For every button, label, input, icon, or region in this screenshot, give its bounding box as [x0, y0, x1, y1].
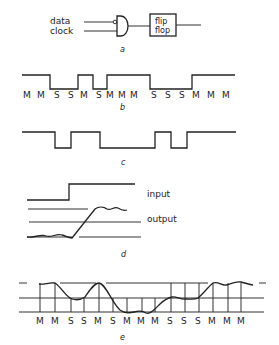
label-e-4: M — [94, 316, 102, 326]
label-b-8: M — [130, 90, 138, 100]
caption-c: c — [121, 158, 126, 167]
panel-a: data clock flip flop a — [50, 14, 201, 54]
label-e-6: M — [123, 316, 131, 326]
label-e-1: M — [51, 316, 59, 326]
caption-b: b — [120, 103, 125, 112]
figure-canvas: data clock flip flop a M M S S M S M M M… — [0, 0, 279, 345]
label-e-3: S — [81, 316, 87, 326]
and-gate-icon — [117, 16, 128, 36]
input-label: input — [147, 189, 171, 199]
panel-d: input output d — [27, 184, 177, 259]
panel-b: M M S S M S M M M S S S M M M b — [22, 75, 235, 112]
label-b-14: M — [222, 90, 230, 100]
waveform-b — [22, 75, 235, 89]
label-e-2: S — [68, 316, 74, 326]
label-b-3: S — [68, 90, 74, 100]
label-b-4: M — [80, 90, 88, 100]
caption-e: e — [120, 333, 125, 342]
clock-input-label: clock — [50, 26, 74, 36]
label-b-1: M — [37, 90, 45, 100]
label-e-10: S — [181, 316, 187, 326]
panel-e-labels: M M S S M S M M M S S S M M M — [36, 316, 245, 326]
flip-flop-label-line1: flip — [155, 17, 167, 26]
label-e-8: M — [151, 316, 159, 326]
caption-a: a — [120, 45, 125, 54]
panel-e: M M S S M S M M M S S S M M M e — [19, 282, 266, 342]
output-label: output — [147, 214, 177, 224]
label-b-6: M — [106, 90, 114, 100]
flip-flop-label-line2: flop — [155, 26, 170, 35]
input-step-waveform — [27, 184, 135, 200]
label-e-5: S — [110, 316, 116, 326]
label-b-9: S — [151, 90, 157, 100]
label-e-7: M — [137, 316, 145, 326]
caption-d: d — [121, 250, 127, 259]
output-response-curve — [27, 207, 127, 238]
label-b-0: M — [23, 90, 31, 100]
panel-c: c — [22, 132, 236, 167]
label-e-14: M — [237, 316, 245, 326]
label-e-11: S — [195, 316, 201, 326]
waveform-c — [22, 132, 236, 148]
label-e-13: M — [223, 316, 231, 326]
label-b-7: M — [118, 90, 126, 100]
label-b-5: S — [96, 90, 102, 100]
inverter-bubble-icon — [113, 20, 117, 24]
label-b-12: M — [192, 90, 200, 100]
data-input-label: data — [50, 16, 70, 26]
panel-b-labels: M M S S M S M M M S S S M M M — [23, 90, 230, 100]
label-e-0: M — [36, 316, 44, 326]
label-b-13: M — [207, 90, 215, 100]
label-e-12: M — [208, 316, 216, 326]
label-e-9: S — [167, 316, 173, 326]
label-b-10: S — [165, 90, 171, 100]
label-b-2: S — [54, 90, 60, 100]
label-b-11: S — [179, 90, 185, 100]
